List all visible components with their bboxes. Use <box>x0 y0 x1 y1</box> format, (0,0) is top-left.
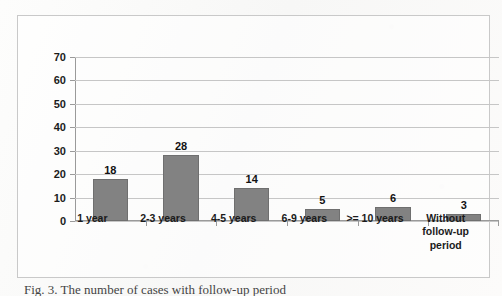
bar-category: 3 <box>428 57 499 221</box>
bar-category: 6 <box>358 57 429 221</box>
bar-category: 28 <box>146 57 217 221</box>
x-axis-category-labels: 1 year2-3 years4-5 years6-9 years>= 10 y… <box>57 212 481 252</box>
y-axis-tick-label: 60 <box>54 75 66 86</box>
bar-value-label: 28 <box>146 141 217 152</box>
bar-category: 14 <box>216 57 287 221</box>
y-axis-tick-label: 10 <box>54 192 66 203</box>
bar-value-label: 18 <box>75 165 146 176</box>
y-axis-tick-label: 40 <box>54 122 66 133</box>
x-axis-category-label: Without follow-up period <box>410 212 481 252</box>
x-axis-category-label: 6-9 years <box>269 212 340 252</box>
plot-area: 010203040506070 182814563 <box>75 57 499 221</box>
y-axis-tick-label: 20 <box>54 169 66 180</box>
x-axis-category-label: 4-5 years <box>198 212 269 252</box>
bar-value-label: 5 <box>287 195 358 206</box>
bar-category: 18 <box>75 57 146 221</box>
bar-value-label: 14 <box>216 174 287 185</box>
bar-category: 5 <box>287 57 358 221</box>
bar-series: 182814563 <box>75 57 499 221</box>
bar-value-label: 3 <box>428 200 499 211</box>
x-axis-category-label: >= 10 years <box>340 212 411 252</box>
y-axis-tick-label: 70 <box>54 52 66 63</box>
figure-caption: Fig. 3. The number of cases with follow-… <box>24 283 464 296</box>
y-axis-tick-label: 30 <box>54 145 66 156</box>
x-axis-tick-mark <box>498 221 499 226</box>
bar-value-label: 6 <box>358 193 429 204</box>
x-axis-category-label: 2-3 years <box>128 212 199 252</box>
y-axis-tick-label: 50 <box>54 98 66 109</box>
x-axis-category-label: 1 year <box>57 212 128 252</box>
